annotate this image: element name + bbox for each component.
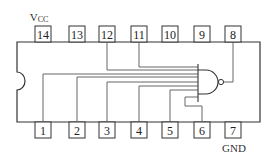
wire-pin-12 — [107, 42, 198, 70]
top-pin-10: 10 — [162, 26, 178, 42]
pin-number: 5 — [167, 124, 173, 138]
wire-pin-1 — [43, 74, 198, 122]
pin-number: 6 — [199, 124, 205, 138]
bottom-pin-1: 1 — [35, 122, 51, 138]
bottom-pin-6: 6 — [194, 122, 210, 138]
top-pin-13: 13 — [69, 26, 85, 42]
bottom-pin-7: 7 — [225, 122, 241, 138]
pin-number: 14 — [37, 28, 49, 42]
internal-wiring — [43, 42, 233, 122]
pin-number: 7 — [230, 124, 236, 138]
pin-number: 11 — [133, 28, 145, 42]
bottom-pin-3: 3 — [99, 122, 115, 138]
ic-diagram: 14 13 12 11 10 9 8 1 2 3 4 5 — [0, 0, 271, 165]
bottom-pin-5: 5 — [162, 122, 178, 138]
pin-number: 9 — [199, 28, 205, 42]
top-pin-11: 11 — [131, 26, 147, 42]
gnd-label: GND — [222, 142, 246, 154]
top-pin-9: 9 — [194, 26, 210, 42]
nand-gate — [198, 64, 224, 102]
top-pin-12: 12 — [99, 26, 115, 42]
pin-number: 3 — [104, 124, 110, 138]
pin-number: 1 — [40, 124, 46, 138]
wire-pin-3 — [107, 82, 198, 122]
pin-number: 10 — [164, 28, 176, 42]
wire-pin-4 — [139, 86, 198, 122]
pin-number: 13 — [71, 28, 83, 42]
pin-number: 4 — [136, 124, 142, 138]
wire-pin-8 — [224, 42, 233, 82]
vcc-label: VCC — [30, 11, 49, 24]
bottom-pin-2: 2 — [69, 122, 85, 138]
bottom-pin-4: 4 — [131, 122, 147, 138]
pin-number: 2 — [74, 124, 80, 138]
top-pin-14: 14 — [35, 26, 51, 42]
pin-number: 8 — [230, 28, 236, 42]
wire-pin-2 — [77, 77, 198, 122]
pin-number: 12 — [101, 28, 113, 42]
wire-pin-6 — [185, 97, 202, 122]
wire-pin-11 — [139, 42, 198, 67]
top-pin-8: 8 — [225, 26, 241, 42]
inversion-bubble — [218, 79, 223, 84]
